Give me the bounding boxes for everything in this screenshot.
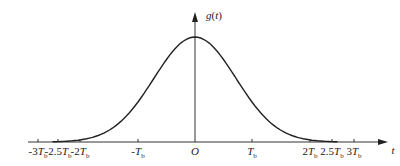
x-tick-label: -2Tb (71, 145, 90, 160)
x-tick-label: -2.5Tb (44, 145, 71, 160)
chart-canvas (0, 0, 400, 166)
y-axis-label: g(t) (206, 9, 222, 21)
gaussian-pulse-chart: g(t) t O -3Tb-2.5Tb-2Tb-TbTb2Tb2.5Tb3Tb (0, 0, 400, 166)
x-tick-label: 2Tb (302, 145, 317, 160)
x-tick-label: -Tb (131, 145, 144, 160)
x-tick-label: Tb (247, 145, 257, 160)
y-axis-arrow-icon (192, 12, 198, 22)
x-axis-arrow-icon (378, 139, 388, 145)
origin-label: O (191, 145, 199, 157)
x-axis-label: t (391, 144, 394, 156)
x-tick-label: 3Tb (346, 145, 361, 160)
x-tick-label: 2.5Tb (320, 145, 343, 160)
